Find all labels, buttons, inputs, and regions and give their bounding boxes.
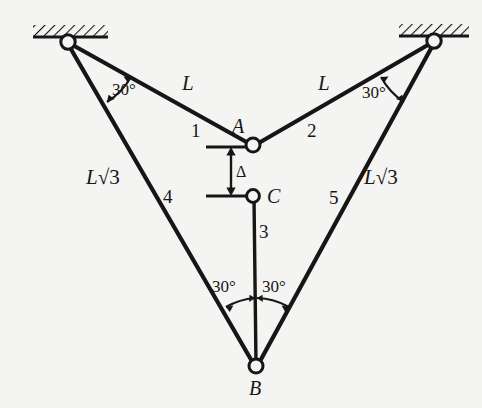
joint-B-pin [249,359,263,373]
angle-label-right-support: 30° [362,84,386,101]
length-label-Lsqrt3-left: L√3 [86,167,120,188]
delta-symbol-label: Δ [236,164,246,180]
length-label-L-left: L [182,73,194,94]
joint-label-B: B [249,378,261,398]
length-label-L-right: L [318,73,330,94]
member-number-5: 5 [329,188,339,207]
joint-label-C: C [267,186,280,206]
joint-A-pin [246,138,260,152]
joint-A-support-pin-right [427,34,441,48]
lsqrt3-left-prefix: L [86,165,98,189]
lsqrt3-right-prefix: L [364,165,376,189]
member-3-line [254,198,256,364]
angle-arc-b-right [257,295,289,312]
lsqrt3-right-radicand: 3 [387,165,398,189]
angle-label-left-support: 30° [112,81,136,98]
joint-left-support-pin [61,35,75,49]
angle-arc-b-left [226,295,255,312]
lsqrt3-left-radical: √ [98,165,110,189]
angle-label-b-left: 30° [212,278,236,295]
truss-diagram: 30° 30° 30° 30° L L L√3 L√3 1 2 3 4 5 A … [0,0,482,408]
angle-label-b-right: 30° [262,278,286,295]
lsqrt3-right-radical: √ [376,165,388,189]
truss-geometry [0,0,482,408]
member-number-3: 3 [259,222,269,241]
lsqrt3-left-radicand: 3 [109,165,120,189]
joint-C-pin [247,190,260,203]
delta-dimension [206,147,256,196]
joint-label-A: A [232,116,244,136]
length-label-Lsqrt3-right: L√3 [364,167,398,188]
member-number-2: 2 [307,121,317,140]
member-number-1: 1 [191,121,201,140]
member-number-4: 4 [163,187,173,206]
